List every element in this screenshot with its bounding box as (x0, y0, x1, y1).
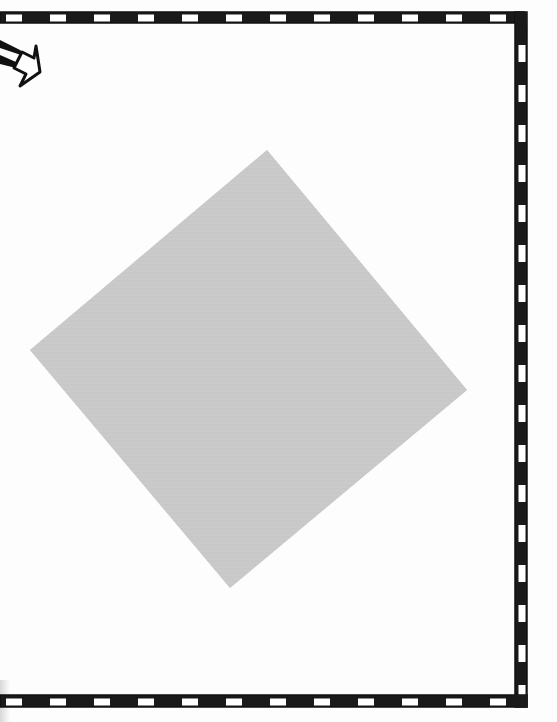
grey-diamond (30, 150, 467, 588)
border-right (515, 12, 527, 707)
drawing-canvas (0, 0, 557, 722)
arrow-down-right-icon (0, 40, 40, 86)
border-top (0, 12, 524, 23)
drawing-page (0, 0, 557, 722)
border-bottom (0, 695, 527, 707)
